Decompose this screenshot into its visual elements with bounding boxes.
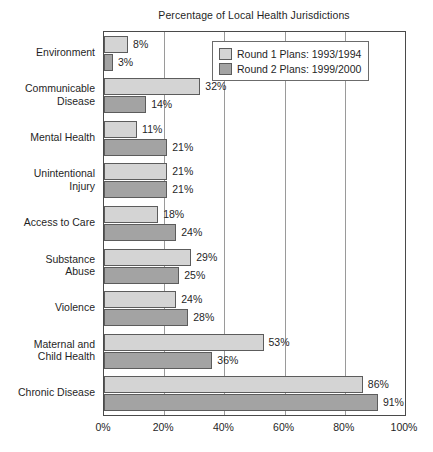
bar-r2	[104, 309, 188, 326]
bar-value-label: 3%	[118, 54, 133, 71]
category-label: Access to Care	[0, 216, 95, 229]
legend-item-round-1: Round 1 Plans: 1993/1994	[219, 46, 361, 61]
x-axis-tick-label: 100%	[381, 421, 427, 433]
bar-value-label: 36%	[217, 352, 238, 369]
legend-swatch-icon-round-1	[219, 48, 232, 60]
bar-value-label: 53%	[269, 334, 290, 351]
bar-group: 29%25%	[104, 249, 405, 284]
bar-r1	[104, 36, 128, 53]
chart-title: Percentage of Local Health Jurisdictions	[103, 9, 405, 21]
bar-value-label: 21%	[172, 163, 193, 180]
category-label-line: Disease	[0, 95, 95, 108]
category-label: Environment	[0, 46, 95, 59]
bar-r1	[104, 206, 158, 223]
bar-value-label: 21%	[172, 139, 193, 156]
bar-group: 24%28%	[104, 291, 405, 326]
bar-value-label: 25%	[184, 267, 205, 284]
bar-group: 21%21%	[104, 163, 405, 198]
category-label: Violence	[0, 301, 95, 314]
legend-swatch-icon-round-2	[219, 63, 232, 75]
bar-r1	[104, 163, 167, 180]
bar-group: 18%24%	[104, 206, 405, 241]
bar-r2	[104, 96, 146, 113]
bar-r1	[104, 376, 363, 393]
legend-label-round-1: Round 1 Plans: 1993/1994	[237, 48, 361, 60]
category-label-line: Mental Health	[0, 131, 95, 144]
chart-legend: Round 1 Plans: 1993/1994 Round 2 Plans: …	[212, 41, 369, 81]
x-axis-tick-label: 80%	[321, 421, 367, 433]
category-label-line: Violence	[0, 301, 95, 314]
category-label-line: Access to Care	[0, 216, 95, 229]
bar-group: 11%21%	[104, 121, 405, 156]
bar-r2	[104, 181, 167, 198]
category-label-line: Chronic Disease	[0, 386, 95, 399]
bar-value-label: 11%	[142, 121, 162, 138]
bar-r1	[104, 334, 264, 351]
bar-r2	[104, 352, 212, 369]
category-label-line: Child Health	[0, 350, 95, 363]
bar-group: 86%91%	[104, 376, 405, 411]
legend-item-round-2: Round 2 Plans: 1999/2000	[219, 61, 361, 76]
category-label-line: Communicable	[0, 82, 95, 95]
legend-label-round-2: Round 2 Plans: 1999/2000	[237, 63, 361, 75]
bar-r1	[104, 249, 191, 266]
bar-value-label: 24%	[181, 291, 202, 308]
category-label: Mental Health	[0, 131, 95, 144]
bar-value-label: 14%	[151, 96, 172, 113]
bar-r2	[104, 139, 167, 156]
bar-value-label: 18%	[163, 206, 184, 223]
bar-value-label: 28%	[193, 309, 214, 326]
x-axis-tick-label: 40%	[200, 421, 246, 433]
x-axis-tick-label: 60%	[261, 421, 307, 433]
plot-area: 8%3%32%14%11%21%21%21%18%24%29%25%24%28%…	[103, 31, 406, 416]
x-axis-tick-label: 0%	[80, 421, 126, 433]
category-label-line: Unintentional	[0, 167, 95, 180]
bar-value-label: 24%	[181, 224, 202, 241]
category-label: CommunicableDisease	[0, 82, 95, 107]
bar-r1	[104, 291, 176, 308]
x-axis-tick-label: 20%	[140, 421, 186, 433]
bar-value-label: 91%	[383, 394, 404, 411]
bar-value-label: 29%	[196, 249, 217, 266]
category-label-line: Abuse	[0, 265, 95, 278]
category-label-line: Injury	[0, 180, 95, 193]
bar-chart: Percentage of Local Health Jurisdictions…	[0, 0, 433, 452]
category-label: Chronic Disease	[0, 386, 95, 399]
bar-r2	[104, 394, 378, 411]
category-label-line: Maternal and	[0, 338, 95, 351]
bar-value-label: 21%	[172, 181, 193, 198]
category-label: UnintentionalInjury	[0, 167, 95, 192]
category-label-line: Substance	[0, 253, 95, 266]
bar-r2	[104, 267, 179, 284]
bar-r1	[104, 121, 137, 138]
bar-value-label: 86%	[368, 376, 389, 393]
category-label: Maternal andChild Health	[0, 338, 95, 363]
bar-r1	[104, 78, 200, 95]
bar-r2	[104, 54, 113, 71]
category-label: SubstanceAbuse	[0, 253, 95, 278]
bar-r2	[104, 224, 176, 241]
bar-value-label: 8%	[133, 36, 148, 53]
category-label-line: Environment	[0, 46, 95, 59]
bar-group: 53%36%	[104, 334, 405, 369]
bar-group: 32%14%	[104, 78, 405, 113]
